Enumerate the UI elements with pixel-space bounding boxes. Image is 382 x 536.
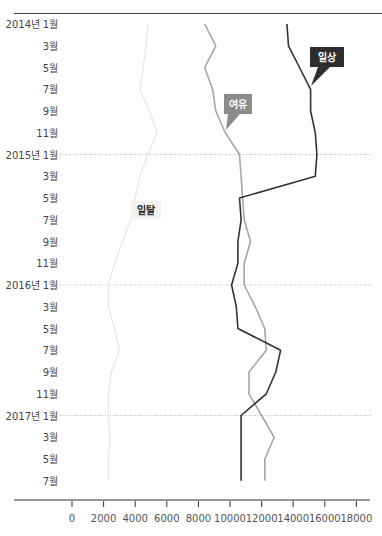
series-label: 여유 bbox=[229, 98, 247, 110]
month-label: 9월 bbox=[43, 367, 58, 378]
month-label: 7월 bbox=[43, 84, 58, 95]
month-label: 1월 bbox=[43, 150, 58, 161]
month-label: 5월 bbox=[43, 454, 58, 465]
year-label: 2014년 bbox=[6, 19, 40, 30]
x-tick-label: 10000 bbox=[214, 513, 246, 524]
month-label: 7월 bbox=[43, 476, 58, 487]
x-tick-label: 4000 bbox=[122, 513, 147, 524]
year-gridlines bbox=[60, 155, 372, 416]
x-tick-label: 2000 bbox=[91, 513, 116, 524]
x-tick-label: 18000 bbox=[340, 513, 372, 524]
series-label: 일탈 bbox=[137, 204, 156, 216]
month-label: 3월 bbox=[43, 432, 58, 443]
x-tick-label: 0 bbox=[69, 513, 75, 524]
month-label: 3월 bbox=[43, 302, 58, 313]
year-label: 2016년 bbox=[6, 280, 40, 291]
series-line-3 bbox=[108, 24, 157, 481]
month-label: 5월 bbox=[43, 193, 58, 204]
month-label: 3월 bbox=[43, 41, 58, 52]
series-label-tag: 일상 bbox=[310, 47, 344, 86]
x-tick-label: 12000 bbox=[246, 513, 278, 524]
month-label: 11월 bbox=[36, 258, 58, 269]
month-label: 7월 bbox=[43, 215, 58, 226]
x-tick-label: 8000 bbox=[186, 513, 211, 524]
x-tick-label: 6000 bbox=[154, 513, 179, 524]
month-label: 1월 bbox=[43, 19, 58, 30]
series-label: 일상 bbox=[318, 51, 337, 63]
series-line-2 bbox=[205, 24, 275, 481]
month-label: 1월 bbox=[43, 280, 58, 291]
month-label: 11월 bbox=[36, 128, 58, 139]
month-label: 1월 bbox=[43, 411, 58, 422]
month-label: 9월 bbox=[43, 237, 58, 248]
line-chart: 2014년1월3월5월7월9월11월2015년1월3월5월7월9월11월2016… bbox=[0, 0, 382, 536]
month-label: 7월 bbox=[43, 345, 58, 356]
year-label: 2015년 bbox=[6, 150, 40, 161]
x-tick-label: 16000 bbox=[309, 513, 341, 524]
month-label: 9월 bbox=[43, 106, 58, 117]
series-line-1 bbox=[232, 24, 317, 481]
month-label: 5월 bbox=[43, 63, 58, 74]
month-label: 3월 bbox=[43, 171, 58, 182]
year-label: 2017년 bbox=[6, 411, 40, 422]
y-axis-labels: 2014년1월3월5월7월9월11월2015년1월3월5월7월9월11월2016… bbox=[6, 19, 58, 487]
x-axis: 0200040006000800010000120001400016000180… bbox=[14, 500, 372, 524]
month-label: 11월 bbox=[36, 389, 58, 400]
series-label-tag: 여유 bbox=[224, 94, 252, 130]
month-label: 5월 bbox=[43, 324, 58, 335]
series-label-tag: 일탈 bbox=[131, 201, 161, 219]
x-tick-label: 14000 bbox=[277, 513, 309, 524]
